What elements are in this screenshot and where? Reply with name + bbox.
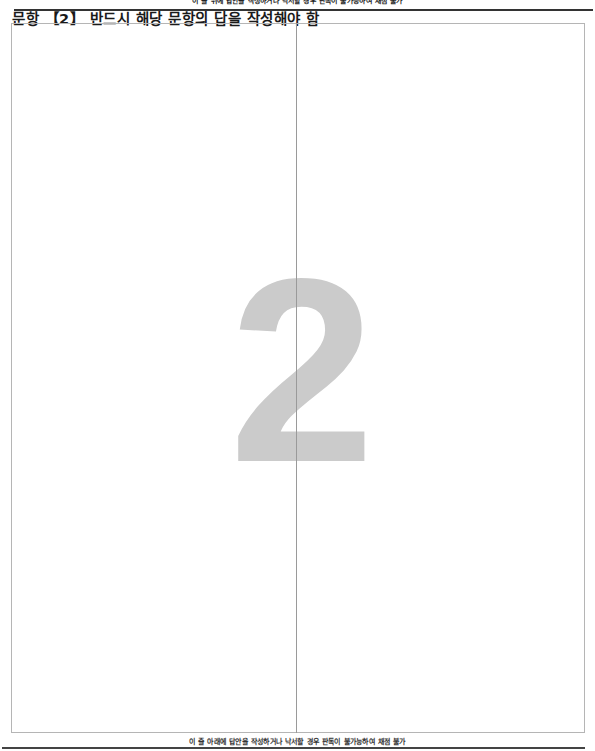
- column-divider: [296, 23, 297, 733]
- bottom-rule: [2, 747, 585, 749]
- bottom-warning-note: 이 줄 아래에 답안을 작성하거나 낙서할 경우 판독이 불가능하여 채점 불가: [0, 736, 595, 746]
- question-number-watermark: 2: [222, 246, 382, 496]
- top-warning-note: 이 줄 위에 답안을 작성하거나 낙서할 경우 판독이 불가능하여 채점 불가: [0, 0, 595, 5]
